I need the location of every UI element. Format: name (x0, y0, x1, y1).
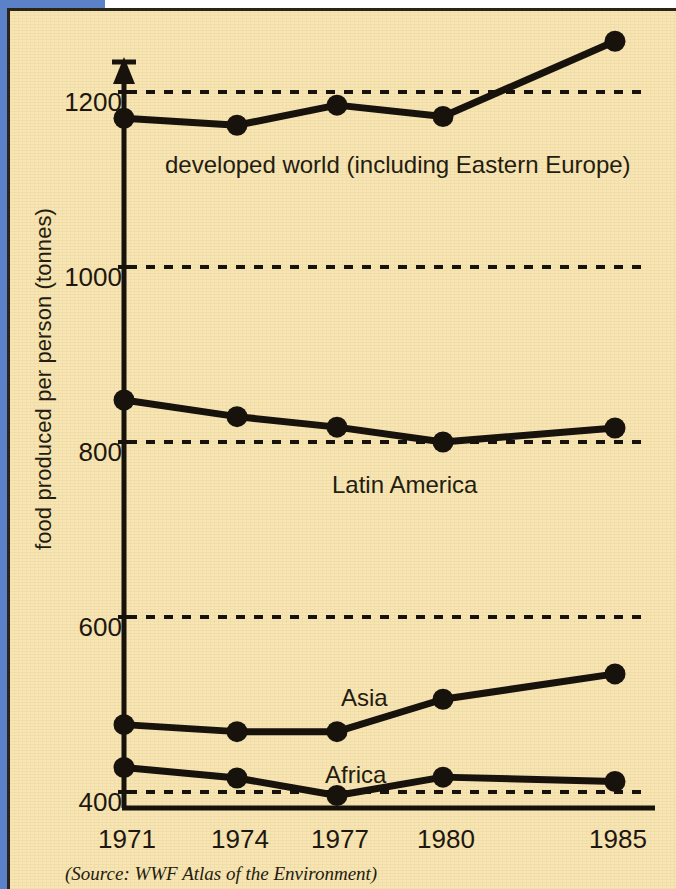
x-tick-label-1974: 1974 (211, 824, 269, 855)
series-label-latin-america: Latin America (332, 471, 477, 499)
y-tick-label-600: 600 (34, 614, 122, 640)
y-tick-label-1200: 1200 (34, 89, 122, 115)
y-tick-label-400: 400 (34, 789, 122, 815)
figure-page: food produced per person (tonnes) 400 60… (0, 0, 676, 889)
page-edge-strip-left (0, 0, 7, 889)
chart-figure: food produced per person (tonnes) 400 60… (7, 8, 676, 889)
x-tick-label-1980: 1980 (417, 824, 475, 855)
y-tick-label-800: 800 (34, 439, 122, 465)
x-tick-label-1985: 1985 (589, 824, 647, 855)
page-edge-band-top (0, 0, 105, 8)
y-axis-title: food produced per person (tonnes) (31, 99, 57, 659)
source-note: (Source: WWF Atlas of the Environment) (65, 863, 377, 885)
series-label-developed-world: developed world (including Eastern Europ… (165, 151, 631, 179)
x-tick-label-1977: 1977 (311, 824, 369, 855)
y-tick-label-1000: 1000 (34, 264, 122, 290)
series-label-asia: Asia (341, 684, 388, 712)
series-label-africa: Africa (325, 761, 386, 789)
x-tick-label-1971: 1971 (98, 824, 156, 855)
